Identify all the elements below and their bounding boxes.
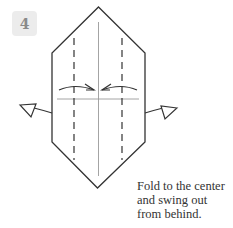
instruction-caption: Fold to the center and swing out from be… [137, 179, 233, 221]
caption-line-1: Fold to the center [137, 179, 233, 193]
swing-out-arrow-left-icon [20, 104, 52, 117]
swing-out-arrow-right-icon [145, 106, 177, 119]
caption-line-2: and swing out [137, 193, 233, 207]
caption-line-3: from behind. [137, 207, 233, 221]
